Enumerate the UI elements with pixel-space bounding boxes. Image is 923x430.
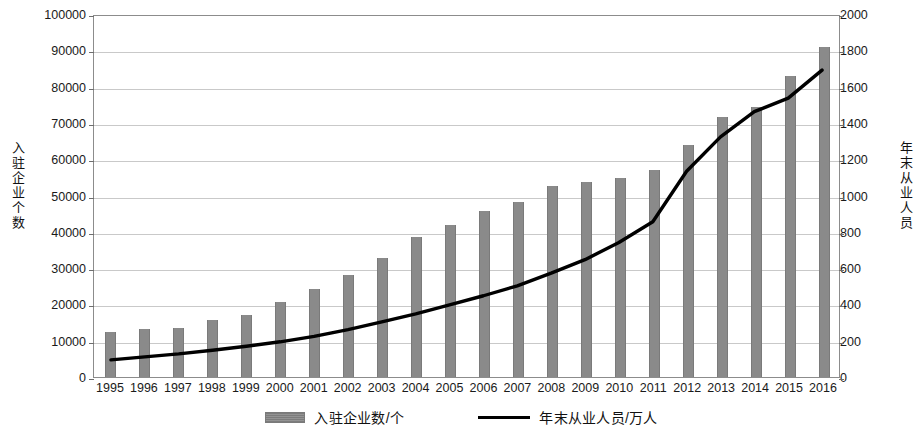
axis-tickmark: [89, 379, 94, 380]
left-axis-tick-label: 20000: [24, 298, 86, 312]
legend-item-bars: 入驻企业数/个: [265, 407, 404, 427]
legend-item-line: 年末从业人员/万人: [478, 407, 658, 427]
right-axis-tick: 1000: [840, 190, 888, 204]
right-axis-tick-label: 2000: [840, 8, 888, 22]
left-axis-tick: 70000: [24, 117, 86, 131]
right-axis-tick: 0: [840, 371, 888, 385]
left-axis-tick: 50000: [24, 190, 86, 204]
left-axis-tick: 80000: [24, 81, 86, 95]
line-swatch-icon: [478, 416, 530, 419]
right-axis-tick-label: 1200: [840, 153, 888, 167]
axis-tickmark: [839, 161, 844, 162]
axis-tickmark: [839, 234, 844, 235]
chart-container: 入驻企业个数 年末从业人员 01000020000300004000050000…: [0, 0, 923, 430]
plot-area: [93, 15, 840, 378]
right-axis-tick: 200: [840, 335, 888, 349]
axis-tickmark: [839, 343, 844, 344]
left-axis-tick: 100000: [24, 8, 86, 22]
right-axis-tick: 2000: [840, 8, 888, 22]
axis-tickmark: [839, 379, 844, 380]
right-axis-tick-label: 1600: [840, 81, 888, 95]
axis-tickmark: [839, 89, 844, 90]
legend-label-bars: 入驻企业数/个: [314, 407, 404, 427]
axis-tickmark: [839, 198, 844, 199]
right-axis-tick-label: 1400: [840, 117, 888, 131]
right-axis-tick-label: 800: [840, 226, 888, 240]
left-axis-tick: 0: [24, 371, 86, 385]
right-axis-tick: 1400: [840, 117, 888, 131]
axis-tickmark: [839, 270, 844, 271]
left-axis-tick: 90000: [24, 44, 86, 58]
right-axis-tick: 600: [840, 262, 888, 276]
left-axis-tick: 10000: [24, 335, 86, 349]
left-axis-tick-label: 30000: [24, 262, 86, 276]
left-axis-tick-label: 40000: [24, 226, 86, 240]
left-axis-tick: 40000: [24, 226, 86, 240]
right-axis-tick-label: 1800: [840, 44, 888, 58]
left-axis-tick-label: 80000: [24, 81, 86, 95]
right-axis-tick: 1600: [840, 81, 888, 95]
left-axis-tick-label: 60000: [24, 153, 86, 167]
right-axis-tick-label: 600: [840, 262, 888, 276]
right-axis-tick-label: 400: [840, 298, 888, 312]
right-axis-tick-label: 200: [840, 335, 888, 349]
left-axis-tick-label: 10000: [24, 335, 86, 349]
x-axis-tick-labels: 1995199619971998199920002001200220032004…: [93, 381, 840, 399]
left-axis-tick-label: 0: [24, 371, 86, 385]
left-axis-tick: 30000: [24, 262, 86, 276]
right-axis-tick-label: 0: [840, 371, 888, 385]
left-axis-tick-label: 50000: [24, 190, 86, 204]
left-axis-tick: 60000: [24, 153, 86, 167]
right-axis-title: 年末从业人员: [898, 140, 914, 230]
left-axis-tick-label: 90000: [24, 44, 86, 58]
right-axis-tick: 800: [840, 226, 888, 240]
left-axis-tick-label: 100000: [24, 8, 86, 22]
left-axis-tick: 20000: [24, 298, 86, 312]
right-axis-tick-label: 1000: [840, 190, 888, 204]
chart-legend: 入驻企业数/个 年末从业人员/万人: [0, 406, 923, 428]
bar-swatch-icon: [265, 412, 305, 423]
axis-tickmark: [839, 16, 844, 17]
right-axis-tick: 1200: [840, 153, 888, 167]
axis-tickmark: [839, 125, 844, 126]
right-axis-tick: 1800: [840, 44, 888, 58]
axis-tickmark: [839, 306, 844, 307]
legend-label-line: 年末从业人员/万人: [539, 407, 658, 427]
right-axis-tick: 400: [840, 298, 888, 312]
line-series: [94, 16, 839, 377]
axis-tickmark: [839, 52, 844, 53]
x-axis-tick-label: 2016: [802, 381, 844, 395]
left-axis-tick-label: 70000: [24, 117, 86, 131]
